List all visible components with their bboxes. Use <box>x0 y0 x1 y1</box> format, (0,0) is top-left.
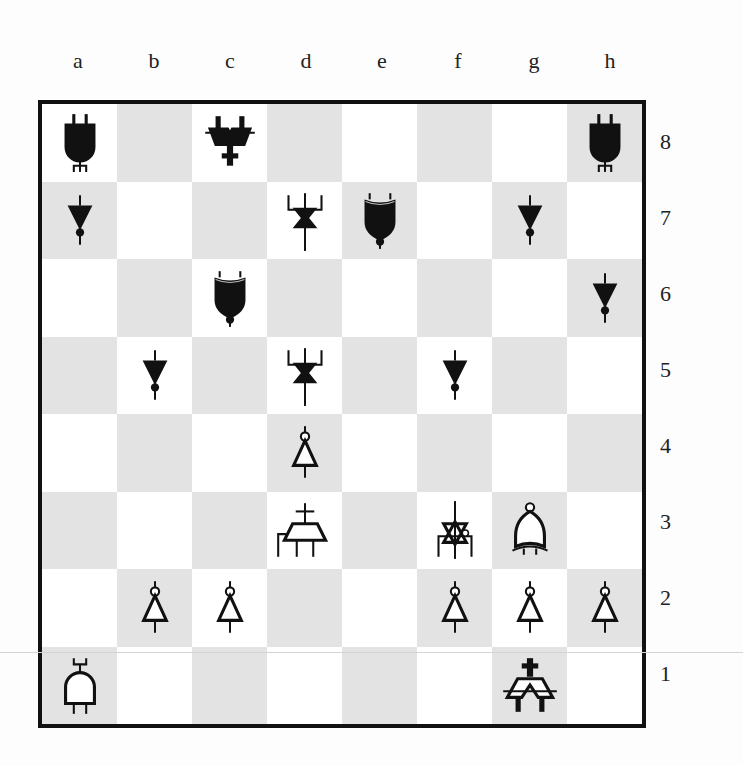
file-label: e <box>344 48 420 78</box>
square-e5[interactable] <box>342 337 417 415</box>
square-f8[interactable] <box>417 104 492 182</box>
square-h4[interactable] <box>567 414 642 492</box>
square-d5[interactable] <box>267 337 342 415</box>
square-a3[interactable] <box>42 492 117 570</box>
white-pawn-icon[interactable] <box>199 575 261 641</box>
square-d2[interactable] <box>267 569 342 647</box>
square-f3[interactable] <box>417 492 492 570</box>
square-h2[interactable] <box>567 569 642 647</box>
white-queen-icon[interactable] <box>424 497 486 563</box>
square-c7[interactable] <box>192 182 267 260</box>
square-a1[interactable] <box>42 647 117 725</box>
square-b4[interactable] <box>117 414 192 492</box>
black-knight-icon[interactable] <box>349 187 411 253</box>
file-label: d <box>268 48 344 78</box>
square-c1[interactable] <box>192 647 267 725</box>
square-h8[interactable] <box>567 104 642 182</box>
file-label: f <box>420 48 496 78</box>
square-g6[interactable] <box>492 259 567 337</box>
square-e6[interactable] <box>342 259 417 337</box>
square-e4[interactable] <box>342 414 417 492</box>
square-c3[interactable] <box>192 492 267 570</box>
square-g3[interactable] <box>492 492 567 570</box>
square-b1[interactable] <box>117 647 192 725</box>
square-f4[interactable] <box>417 414 492 492</box>
white-pawn-icon[interactable] <box>274 420 336 486</box>
square-b3[interactable] <box>117 492 192 570</box>
square-e8[interactable] <box>342 104 417 182</box>
white-pawn-icon[interactable] <box>424 575 486 641</box>
black-rook-icon[interactable] <box>574 110 636 176</box>
square-a6[interactable] <box>42 259 117 337</box>
square-g5[interactable] <box>492 337 567 415</box>
black-king-icon[interactable] <box>199 110 261 176</box>
black-rook-icon[interactable] <box>49 110 111 176</box>
square-h6[interactable] <box>567 259 642 337</box>
white-king-icon[interactable] <box>499 652 561 718</box>
file-label: g <box>496 48 572 78</box>
file-label: b <box>116 48 192 78</box>
black-knight-icon[interactable] <box>199 265 261 331</box>
rank-label: 7 <box>660 180 700 256</box>
square-f2[interactable] <box>417 569 492 647</box>
square-h3[interactable] <box>567 492 642 570</box>
white-pawn-icon[interactable] <box>499 575 561 641</box>
square-b5[interactable] <box>117 337 192 415</box>
square-f7[interactable] <box>417 182 492 260</box>
square-a2[interactable] <box>42 569 117 647</box>
square-f5[interactable] <box>417 337 492 415</box>
white-pawn-icon[interactable] <box>574 575 636 641</box>
black-pawn-icon[interactable] <box>574 265 636 331</box>
square-d1[interactable] <box>267 647 342 725</box>
square-h5[interactable] <box>567 337 642 415</box>
rank-labels: 8 7 6 5 4 3 2 1 <box>660 104 700 712</box>
square-g4[interactable] <box>492 414 567 492</box>
white-pawn-icon[interactable] <box>124 575 186 641</box>
black-queen-icon[interactable] <box>274 342 336 408</box>
square-d3[interactable] <box>267 492 342 570</box>
file-label: a <box>40 48 116 78</box>
square-e7[interactable] <box>342 182 417 260</box>
rank-label: 2 <box>660 560 700 636</box>
square-c6[interactable] <box>192 259 267 337</box>
square-f1[interactable] <box>417 647 492 725</box>
square-d6[interactable] <box>267 259 342 337</box>
square-g2[interactable] <box>492 569 567 647</box>
square-b6[interactable] <box>117 259 192 337</box>
white-rook-icon[interactable] <box>49 652 111 718</box>
file-labels: a b c d e f g h <box>40 48 648 78</box>
square-e1[interactable] <box>342 647 417 725</box>
square-g1[interactable] <box>492 647 567 725</box>
square-c5[interactable] <box>192 337 267 415</box>
rank-label: 4 <box>660 408 700 484</box>
square-b2[interactable] <box>117 569 192 647</box>
square-h7[interactable] <box>567 182 642 260</box>
square-d4[interactable] <box>267 414 342 492</box>
square-c8[interactable] <box>192 104 267 182</box>
square-a4[interactable] <box>42 414 117 492</box>
square-f6[interactable] <box>417 259 492 337</box>
black-pawn-icon[interactable] <box>49 187 111 253</box>
square-g7[interactable] <box>492 182 567 260</box>
black-pawn-icon[interactable] <box>124 342 186 408</box>
square-c4[interactable] <box>192 414 267 492</box>
black-queen-icon[interactable] <box>274 187 336 253</box>
white-bishop-icon[interactable] <box>274 497 336 563</box>
square-b7[interactable] <box>117 182 192 260</box>
square-a7[interactable] <box>42 182 117 260</box>
scan-artifact-line <box>0 652 743 653</box>
white-knight-icon[interactable] <box>499 497 561 563</box>
square-e3[interactable] <box>342 492 417 570</box>
square-h1[interactable] <box>567 647 642 725</box>
square-g8[interactable] <box>492 104 567 182</box>
square-d8[interactable] <box>267 104 342 182</box>
square-d7[interactable] <box>267 182 342 260</box>
black-pawn-icon[interactable] <box>499 187 561 253</box>
square-a8[interactable] <box>42 104 117 182</box>
square-a5[interactable] <box>42 337 117 415</box>
square-e2[interactable] <box>342 569 417 647</box>
square-c2[interactable] <box>192 569 267 647</box>
black-pawn-icon[interactable] <box>424 342 486 408</box>
square-b8[interactable] <box>117 104 192 182</box>
rank-label: 6 <box>660 256 700 332</box>
